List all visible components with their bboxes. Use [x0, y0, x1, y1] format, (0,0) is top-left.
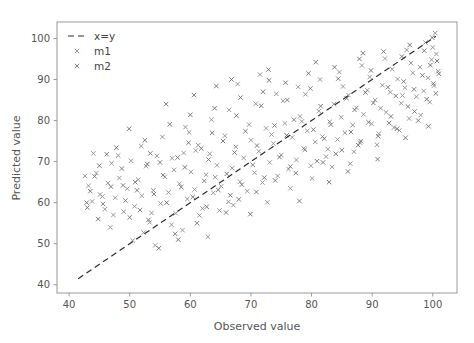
legend-item-m1[interactable]: m1	[75, 45, 111, 57]
y-tick-label: 100	[31, 33, 50, 44]
legend-label: m1	[94, 45, 111, 57]
data-point-m1	[268, 160, 272, 164]
data-point-m2	[164, 102, 168, 106]
data-point-m1	[125, 187, 129, 191]
data-point-m1	[337, 70, 341, 74]
data-point-m1	[217, 208, 221, 212]
y-axis-label: Predicted value	[10, 115, 23, 200]
data-point-m2	[422, 49, 426, 53]
data-point-m2	[389, 114, 393, 118]
data-point-m2	[336, 76, 340, 80]
data-point-m2	[85, 205, 89, 209]
data-point-m1	[303, 92, 307, 96]
data-point-m2	[114, 145, 118, 149]
data-point-m2	[191, 195, 195, 199]
data-point-m2	[297, 199, 301, 203]
data-point-m1	[183, 125, 187, 129]
data-point-m2	[273, 178, 277, 182]
data-point-m1	[275, 174, 279, 178]
data-point-m1	[111, 213, 115, 217]
legend-marker-swatch	[75, 64, 79, 68]
data-point-m2	[145, 162, 149, 166]
legend-item-x=y[interactable]: x=y	[68, 30, 115, 42]
x-tick-label: 70	[245, 299, 258, 310]
identity-reference-line	[78, 36, 436, 278]
data-point-m1	[341, 84, 345, 88]
data-point-m1	[286, 167, 290, 171]
data-point-m1	[158, 201, 162, 205]
data-point-m2	[375, 157, 379, 161]
data-point-m2	[386, 85, 390, 89]
data-point-m1	[407, 116, 411, 120]
data-point-m2	[306, 71, 310, 75]
data-point-m2	[285, 98, 289, 102]
data-point-m1	[185, 197, 189, 201]
data-point-m1	[271, 141, 275, 145]
y-tick-label: 40	[37, 279, 50, 290]
x-axis-label: Observed value	[214, 320, 301, 333]
data-point-m2	[251, 163, 255, 167]
data-point-m2	[315, 159, 319, 163]
data-point-m2	[266, 67, 270, 71]
data-point-m1	[388, 90, 392, 94]
data-point-m2	[120, 166, 124, 170]
x-tick-label: 50	[123, 299, 136, 310]
data-point-m1	[309, 164, 313, 168]
data-point-m2	[255, 143, 259, 147]
data-point-m1	[219, 184, 223, 188]
data-point-m1	[192, 187, 196, 191]
series-m2	[85, 35, 442, 250]
x-tick-label: 40	[63, 299, 76, 310]
legend-label: m2	[94, 60, 111, 72]
legend-marker-swatch	[75, 49, 79, 53]
data-point-m2	[303, 148, 307, 152]
data-point-m1	[227, 108, 231, 112]
data-point-m1	[200, 206, 204, 210]
data-point-m2	[243, 129, 247, 133]
data-point-m2	[352, 108, 356, 112]
data-point-m1	[213, 175, 217, 179]
data-point-m1	[257, 149, 261, 153]
data-point-m2	[183, 165, 187, 169]
data-point-m1	[169, 223, 173, 227]
data-point-m1	[215, 163, 219, 167]
data-point-m1	[249, 138, 253, 142]
data-point-m1	[166, 190, 170, 194]
data-point-m1	[139, 144, 143, 148]
data-point-m2	[332, 65, 336, 69]
data-point-m1	[223, 134, 227, 138]
data-point-m2	[109, 184, 113, 188]
data-point-m2	[408, 43, 412, 47]
data-point-m2	[267, 78, 271, 82]
data-point-m2	[96, 217, 100, 221]
data-point-m1	[91, 151, 95, 155]
data-point-m2	[272, 123, 276, 127]
data-point-m1	[189, 170, 193, 174]
data-point-m2	[363, 90, 367, 94]
data-point-m2	[221, 139, 225, 143]
data-point-m1	[180, 228, 184, 232]
data-point-m2	[195, 221, 199, 225]
data-point-m1	[170, 156, 174, 160]
data-point-m1	[409, 61, 413, 65]
y-tick-label: 70	[37, 156, 50, 167]
data-point-m2	[206, 157, 210, 161]
data-point-m1	[433, 31, 437, 35]
data-point-m1	[197, 213, 201, 217]
data-point-m2	[412, 87, 416, 91]
data-point-m2	[101, 202, 105, 206]
data-point-m2	[283, 81, 287, 85]
data-point-m1	[434, 52, 438, 56]
data-point-m1	[235, 82, 239, 86]
data-point-m1	[121, 210, 125, 214]
data-point-m1	[206, 235, 210, 239]
legend-item-m2[interactable]: m2	[75, 60, 111, 72]
data-point-m1	[411, 71, 415, 75]
data-point-m2	[434, 91, 438, 95]
data-point-m1	[247, 122, 251, 126]
data-point-m2	[175, 155, 179, 159]
data-point-m2	[308, 86, 312, 90]
data-point-m2	[349, 130, 353, 134]
data-point-m2	[133, 180, 137, 184]
data-point-m2	[277, 155, 281, 159]
